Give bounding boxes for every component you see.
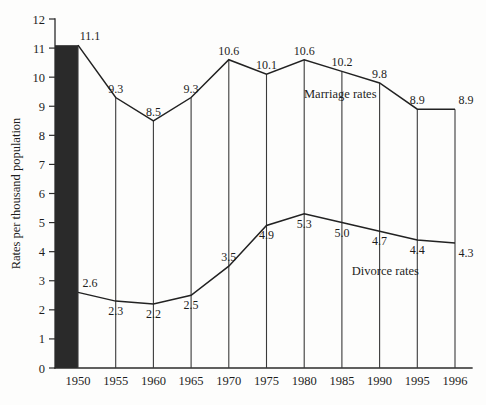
y-tick-label: 9 <box>39 100 45 114</box>
y-tick-label: 6 <box>39 187 45 201</box>
y-tick-label: 0 <box>39 362 45 376</box>
data-value-label: 10.2 <box>331 55 352 69</box>
data-value-label: 5.0 <box>334 226 349 240</box>
chart-container: 0123456789101112 19501955196019651970197… <box>0 0 486 405</box>
x-tick-label: 1980 <box>292 374 317 388</box>
data-value-label: 10.1 <box>256 58 277 72</box>
x-tick-label: 1996 <box>443 374 468 388</box>
y-axis-title-text: Rates per thousand population <box>9 117 23 269</box>
y-tick-label: 4 <box>39 245 46 259</box>
x-tick-label: 1970 <box>216 374 241 388</box>
x-tick-label: 1955 <box>103 374 128 388</box>
data-value-label: 2.6 <box>83 276 98 290</box>
y-tick-label: 3 <box>39 274 45 288</box>
series-annotation: Divorce rates <box>352 264 419 278</box>
y-tick-label: 12 <box>33 13 46 27</box>
x-tick-label: 1990 <box>367 374 392 388</box>
x-tick-label: 1965 <box>179 374 204 388</box>
x-tick-label: 1960 <box>141 374 166 388</box>
y-tick-label: 5 <box>39 216 45 230</box>
data-value-label: 9.8 <box>372 67 387 81</box>
series-annotation: Marriage rates <box>304 87 377 101</box>
data-value-label: 2.5 <box>184 298 199 312</box>
data-value-label: 3.5 <box>221 250 236 264</box>
shaded-column-rect <box>55 45 78 368</box>
y-axis-title: Rates per thousand population <box>9 117 23 269</box>
y-tick-label: 2 <box>39 303 45 317</box>
data-value-label: 5.3 <box>297 217 312 231</box>
data-value-label: 4.9 <box>259 228 274 242</box>
x-tick-label: 1975 <box>254 374 279 388</box>
x-tick-label: 1995 <box>405 374 430 388</box>
data-value-label: 4.4 <box>410 243 425 257</box>
x-tick-label: 1950 <box>66 374 91 388</box>
data-value-label: 10.6 <box>218 44 239 58</box>
data-value-label: 9.3 <box>184 82 199 96</box>
shaded-column <box>55 45 78 368</box>
rates-line-chart: 0123456789101112 19501955196019651970197… <box>0 0 486 405</box>
data-value-label: 8.5 <box>146 105 161 119</box>
data-value-label: 4.7 <box>372 234 387 248</box>
y-tick-label: 8 <box>39 129 45 143</box>
y-tick-label: 10 <box>33 71 46 85</box>
data-value-label: 2.2 <box>146 307 161 321</box>
x-tick-label: 1985 <box>329 374 354 388</box>
y-tick-label: 7 <box>39 158 45 172</box>
data-value-label: 8.9 <box>459 93 474 107</box>
data-value-label: 11.1 <box>80 29 101 43</box>
data-value-label: 8.9 <box>410 93 425 107</box>
data-value-label: 2.3 <box>108 304 123 318</box>
data-value-label: 9.3 <box>108 82 123 96</box>
data-value-label: 4.3 <box>459 246 474 260</box>
y-tick-label: 1 <box>39 332 45 346</box>
data-value-label: 10.6 <box>294 44 315 58</box>
y-tick-label: 11 <box>33 42 45 56</box>
